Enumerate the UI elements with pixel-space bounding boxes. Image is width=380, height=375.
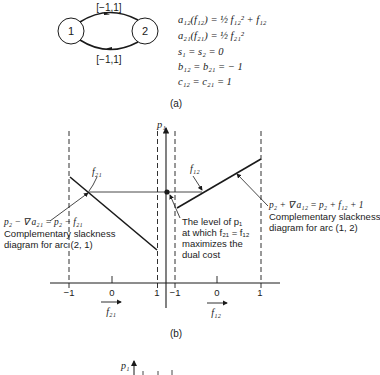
f21-axis-label: f₂₁ (106, 306, 116, 317)
center-desc-line1: The level of p₁ (182, 216, 249, 227)
center-desc-line4: dual cost (182, 249, 249, 260)
tick-label-left-pos1: 1 (154, 287, 159, 298)
equation-a12: a₁₂(f₁₂) = ½ f₁₂² + f₁₂ (178, 14, 267, 25)
arc-1-2-bounds: [−1,1] (96, 2, 122, 13)
optimal-point-dot (164, 189, 169, 194)
f21-pointer (89, 177, 97, 191)
node-2-label: 2 (142, 25, 148, 37)
center-annotation: The level of p₁ at which f₂₁ = f₁₂ maxim… (182, 216, 249, 260)
p1-axis-label: p₁ (156, 119, 166, 130)
f12-curve-label: f₁₂ (190, 163, 200, 174)
f21-curve-label: f₂₁ (92, 166, 102, 177)
tick-label-right-0: 0 (214, 287, 219, 298)
panel-c-partial: p₁ (120, 360, 172, 375)
panel-c-y-axis-label: p₁ (120, 360, 129, 371)
equation-a21: a₂₁(f₂₁) = ½ f₂₁² (178, 30, 244, 41)
caption-b: (b) (170, 328, 182, 339)
f12-axis-label: f₁₂ (211, 307, 221, 318)
equation-lower-bounds: b₁₂ = b₂₁ = − 1 (178, 61, 243, 72)
arc12-desc-line1: Complementary slackness (269, 211, 380, 222)
tick-label-left-0: 0 (109, 287, 114, 298)
arc-2-1-bounds: [−1,1] (96, 54, 122, 65)
caption-a: (a) (170, 98, 182, 109)
network-diagram: 1 2 [−1,1] [−1,1] (a) (58, 2, 182, 109)
arc12-formula: p₂ + ∇ a₁₂ = p₂ + f₁₂ + 1 (269, 200, 380, 211)
arc21-desc-line2: diagram for arc (2, 1) (4, 239, 115, 250)
arc12-annotation-leader (237, 174, 268, 206)
f12-pointer (193, 176, 202, 190)
tick-label-right-pos1: 1 (257, 287, 262, 298)
equation-supplies: s₁ = s₂ = 0 (178, 46, 223, 57)
arc-1-2 (80, 12, 138, 22)
equation-upper-bounds: c₁₂ = c₂₁ = 1 (178, 76, 232, 87)
node-1-label: 1 (68, 25, 74, 37)
arc21-formula: p₂ − ∇ a₂₁ = p₂ − f₂₁ (4, 217, 115, 228)
arc12-annotation: p₂ + ∇ a₁₂ = p₂ + f₁₂ + 1 Complementary … (269, 200, 380, 233)
arc21-desc-line1: Complementary slackness (4, 228, 115, 239)
arc12-desc-line2: diagram for arc (1, 2) (269, 222, 380, 233)
arc21-annotation: p₂ − ∇ a₂₁ = p₂ − f₂₁ Complementary slac… (4, 217, 115, 250)
center-desc-line2: at which f₂₁ = f₁₂ (182, 227, 249, 238)
tick-label-right-neg1: −1 (170, 287, 181, 298)
tick-label-left-neg1: −1 (64, 287, 75, 298)
center-desc-line3: maximizes the (182, 238, 249, 249)
